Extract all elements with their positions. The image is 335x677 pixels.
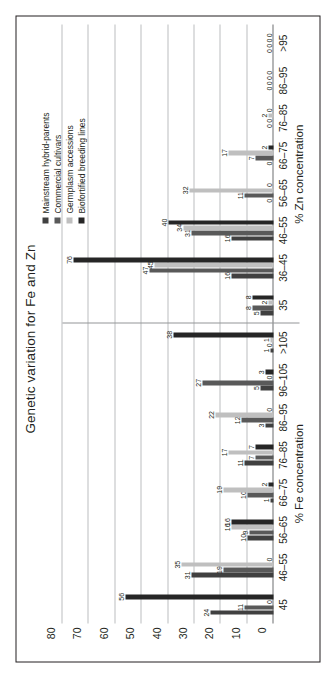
bar[interactable]: 8 bbox=[62, 295, 273, 300]
bar-fill bbox=[149, 268, 273, 273]
bar[interactable]: 0 bbox=[62, 43, 273, 48]
bar[interactable]: 38 bbox=[62, 332, 273, 337]
bar[interactable]: 11 bbox=[62, 460, 273, 465]
bar[interactable]: 31 bbox=[62, 230, 273, 235]
bar[interactable]: 10 bbox=[62, 535, 273, 540]
bar[interactable]: 0 bbox=[62, 375, 273, 380]
bar[interactable]: 9 bbox=[62, 530, 273, 535]
chart-frame: Genetic variation for Fe and Zn Mainstre… bbox=[15, 15, 320, 662]
bar[interactable]: 19 bbox=[62, 567, 273, 572]
bar[interactable]: 0 bbox=[62, 107, 273, 112]
bar[interactable]: 0 bbox=[62, 81, 273, 86]
bar-group: 582835 bbox=[62, 286, 273, 323]
bar-fill bbox=[125, 594, 273, 599]
bar[interactable]: 11 bbox=[62, 193, 273, 198]
bar-value-label: 8 bbox=[244, 305, 251, 309]
bar-group: 01132056–65 bbox=[62, 174, 273, 211]
bar-value-label: 0 bbox=[265, 118, 272, 122]
category-label: 46–55 bbox=[277, 211, 288, 248]
bar[interactable]: 0 bbox=[62, 123, 273, 128]
bar[interactable]: 7 bbox=[62, 444, 273, 449]
category-label: >95 bbox=[277, 24, 288, 61]
bar[interactable]: 35 bbox=[62, 562, 273, 567]
bar[interactable]: 0 bbox=[62, 182, 273, 187]
bar[interactable]: 0 bbox=[62, 33, 273, 38]
bar[interactable]: 2 bbox=[62, 482, 273, 487]
chart-panel-zn: 5828351647457636–451631344046–5501132056… bbox=[62, 24, 273, 324]
bar[interactable]: 0 bbox=[62, 70, 273, 75]
category-label: 56–65 bbox=[277, 511, 288, 548]
bar-fill bbox=[244, 460, 273, 465]
bar-fill bbox=[215, 412, 273, 417]
bar-fill bbox=[268, 482, 273, 487]
bar[interactable]: 0 bbox=[62, 343, 273, 348]
bar[interactable]: 2 bbox=[62, 145, 273, 150]
bar[interactable]: 0 bbox=[62, 48, 273, 53]
bar[interactable]: 22 bbox=[62, 412, 273, 417]
bar[interactable]: 1 bbox=[62, 348, 273, 353]
bar[interactable]: 8 bbox=[62, 305, 273, 310]
bar[interactable]: 2 bbox=[62, 113, 273, 118]
bar-value-label: 5 bbox=[252, 386, 259, 390]
bar-fill bbox=[181, 562, 273, 567]
bar[interactable]: 16 bbox=[62, 519, 273, 524]
bar-fill bbox=[244, 193, 273, 198]
bar[interactable]: 0 bbox=[62, 557, 273, 562]
bar[interactable]: 11 bbox=[62, 605, 273, 610]
bar[interactable]: 12 bbox=[62, 417, 273, 422]
bar[interactable]: 31 bbox=[62, 572, 273, 577]
bar-fill bbox=[223, 567, 273, 572]
bar[interactable]: 3 bbox=[62, 369, 273, 374]
bar-fill bbox=[244, 605, 273, 610]
bar-fill bbox=[228, 150, 273, 155]
bar-value-label: 7 bbox=[247, 156, 254, 160]
bar-value-label: 3 bbox=[257, 423, 264, 427]
bar[interactable]: 40 bbox=[62, 220, 273, 225]
bar-group: 0000>95 bbox=[62, 24, 273, 61]
bar-fill bbox=[241, 417, 273, 422]
bar-value-label: 9 bbox=[241, 530, 248, 534]
bar[interactable]: 32 bbox=[62, 188, 273, 193]
bar[interactable]: 3 bbox=[62, 423, 273, 428]
bar[interactable]: 47 bbox=[62, 268, 273, 273]
bar[interactable]: 34 bbox=[62, 225, 273, 230]
bar[interactable]: 10 bbox=[62, 492, 273, 497]
bar[interactable]: 56 bbox=[62, 594, 273, 599]
bar[interactable]: 17 bbox=[62, 450, 273, 455]
bar[interactable]: 16 bbox=[62, 236, 273, 241]
bar[interactable]: 0 bbox=[62, 86, 273, 91]
bar[interactable]: 0 bbox=[62, 161, 273, 166]
category-label: 76–85 bbox=[277, 436, 288, 473]
bar[interactable]: 0 bbox=[62, 118, 273, 123]
bar[interactable]: 0 bbox=[62, 407, 273, 412]
bar[interactable]: 16 bbox=[62, 273, 273, 278]
bar-fill bbox=[189, 188, 273, 193]
bar-value-label: 16 bbox=[223, 518, 230, 526]
bar[interactable]: 0 bbox=[62, 75, 273, 80]
bar[interactable]: 0 bbox=[62, 38, 273, 43]
bar[interactable]: 16 bbox=[62, 524, 273, 529]
bar-fill bbox=[202, 380, 273, 385]
bar[interactable]: 7 bbox=[62, 155, 273, 160]
axis-area: 01020304050607080241105645311935046–5510… bbox=[62, 24, 273, 623]
bar[interactable]: 5 bbox=[62, 385, 273, 390]
legend-swatch-icon bbox=[54, 217, 60, 223]
bar[interactable]: 19 bbox=[62, 487, 273, 492]
bar-fill bbox=[268, 113, 273, 118]
y-axis-tick-label: 30 bbox=[176, 627, 188, 639]
bar[interactable]: 76 bbox=[62, 257, 273, 262]
bar[interactable]: 27 bbox=[62, 380, 273, 385]
bar-value-label: 38 bbox=[165, 330, 172, 338]
bar-group: 0717266–75 bbox=[62, 136, 273, 173]
bar[interactable]: 2 bbox=[62, 300, 273, 305]
bar[interactable]: 5 bbox=[62, 310, 273, 315]
bar[interactable]: 17 bbox=[62, 150, 273, 155]
bar-value-label: 0 bbox=[265, 43, 272, 47]
bar[interactable]: 45 bbox=[62, 262, 273, 267]
bar[interactable]: 0 bbox=[62, 599, 273, 604]
bar[interactable]: 7 bbox=[62, 455, 273, 460]
bar-value-label: 56 bbox=[117, 592, 124, 600]
category-label: >105 bbox=[277, 324, 288, 361]
bar-fill bbox=[252, 305, 273, 310]
bar-fill bbox=[191, 230, 273, 235]
